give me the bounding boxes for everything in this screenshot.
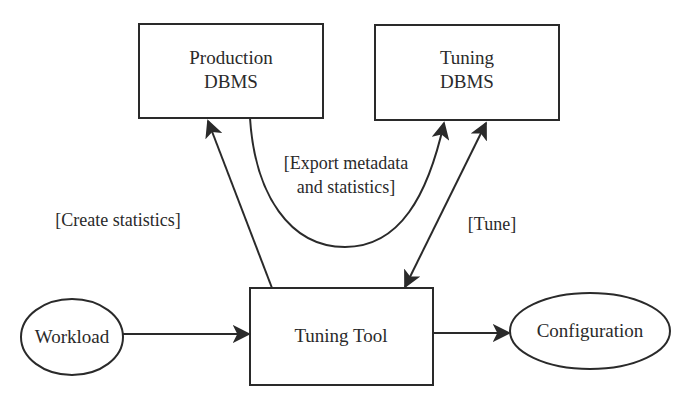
workload-node: Workload	[21, 299, 123, 375]
tuning-dbms-label-line2: DBMS	[440, 71, 494, 92]
tune-label: [Tune]	[468, 214, 516, 234]
production-dbms-node: Production DBMS	[139, 24, 323, 118]
configuration-node: Configuration	[510, 293, 670, 369]
tuning-dbms-label-line1: Tuning	[440, 47, 495, 68]
diagram-canvas: Production DBMS Tuning DBMS Tuning Tool …	[0, 0, 677, 405]
configuration-label: Configuration	[537, 320, 644, 341]
production-label-line2: DBMS	[204, 71, 258, 92]
tuning-tool-label: Tuning Tool	[294, 325, 387, 346]
tuning-dbms-node: Tuning DBMS	[375, 25, 559, 120]
create-statistics-arrow	[208, 121, 272, 288]
export-label-line2: and statistics]	[297, 177, 395, 197]
production-label-line1: Production	[189, 47, 273, 68]
tuning-tool-node: Tuning Tool	[250, 288, 433, 385]
export-label-line1: [Export metadata	[284, 153, 408, 173]
tune-arrow	[405, 123, 486, 287]
workload-label: Workload	[35, 326, 110, 347]
create-statistics-label: [Create statistics]	[55, 210, 180, 230]
